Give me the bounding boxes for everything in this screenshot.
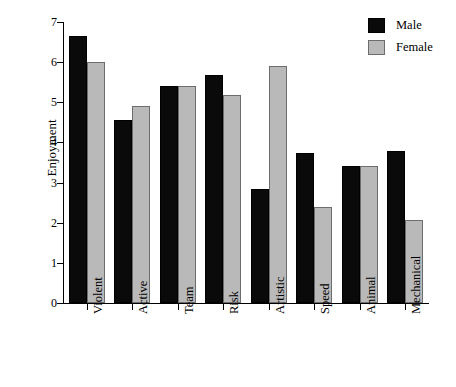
bar-risk-female xyxy=(223,95,241,303)
plot-area xyxy=(64,22,428,303)
legend-item-female: Female xyxy=(368,36,456,58)
y-axis-tick xyxy=(57,303,64,304)
legend: Male Female xyxy=(368,14,456,58)
bar-team-female xyxy=(178,86,196,303)
x-axis-tick xyxy=(87,303,88,310)
legend-swatch-male-icon xyxy=(368,18,385,33)
bar-speed-male xyxy=(296,153,314,303)
bar-artistic-female xyxy=(269,66,287,303)
x-axis-label-mechanical: Mechanical xyxy=(410,256,423,314)
y-axis-tick xyxy=(57,263,64,264)
y-axis-tick-label: 0 xyxy=(7,297,57,309)
bar-animal-male xyxy=(342,166,360,303)
x-axis-tick xyxy=(405,303,406,310)
bar-chart-figure: Enjoyment 01234567 ViolentActiveTeamRisk… xyxy=(0,0,456,387)
y-axis-tick xyxy=(57,223,64,224)
y-axis-tick xyxy=(57,102,64,103)
bar-active-male xyxy=(114,120,132,303)
y-axis-tick-label: 1 xyxy=(7,257,57,269)
x-axis-label-artistic: Artistic xyxy=(274,277,287,315)
y-axis-tick-label: 7 xyxy=(7,16,57,28)
bar-active-female xyxy=(132,106,150,304)
y-axis-tick-label: 4 xyxy=(7,136,57,148)
bar-mechanical-male xyxy=(387,151,405,303)
x-axis-label-animal: Animal xyxy=(365,277,378,315)
y-axis-tick-label: 5 xyxy=(7,96,57,108)
x-axis-tick xyxy=(223,303,224,310)
legend-label-female: Female xyxy=(396,41,433,54)
y-axis-tick xyxy=(57,62,64,63)
x-axis-tick xyxy=(269,303,270,310)
legend-label-male: Male xyxy=(396,19,422,32)
x-axis-label-risk: Risk xyxy=(228,291,241,314)
x-axis-label-speed: Speed xyxy=(319,283,332,314)
y-axis-tick-label: 3 xyxy=(7,177,57,189)
bar-violent-female xyxy=(87,62,105,303)
bar-artistic-male xyxy=(251,189,269,303)
x-axis-tick xyxy=(314,303,315,310)
legend-item-male: Male xyxy=(368,14,456,36)
bar-risk-male xyxy=(205,75,223,303)
x-axis-tick xyxy=(360,303,361,310)
y-axis-tick xyxy=(57,183,64,184)
y-axis-tick xyxy=(57,142,64,143)
y-axis-tick-label: 2 xyxy=(7,217,57,229)
legend-swatch-female-icon xyxy=(368,40,385,55)
x-axis-tick xyxy=(178,303,179,310)
x-axis-label-team: Team xyxy=(183,286,196,314)
x-axis-label-active: Active xyxy=(137,281,150,314)
x-axis-label-violent: Violent xyxy=(92,277,105,314)
bar-violent-male xyxy=(69,36,87,303)
y-axis-tick-label: 6 xyxy=(7,56,57,68)
y-axis-tick xyxy=(57,22,64,23)
bar-team-male xyxy=(160,86,178,303)
x-axis-tick xyxy=(132,303,133,310)
